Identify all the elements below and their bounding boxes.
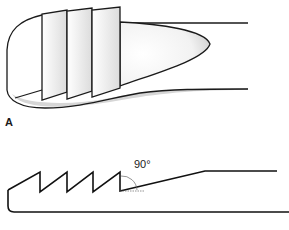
panel-label-a: A — [5, 116, 13, 128]
instrument-tip-profile — [8, 171, 289, 212]
diagram-canvas — [0, 0, 289, 230]
instrument-tip-perspective — [7, 7, 248, 108]
angle-label: 90° — [134, 158, 151, 170]
